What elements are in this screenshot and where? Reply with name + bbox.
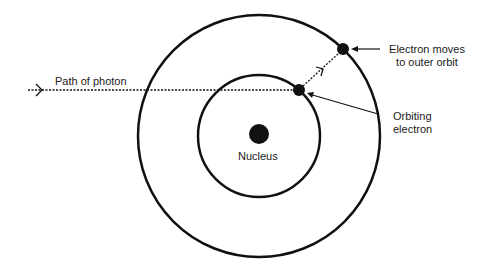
atom-diagram	[0, 0, 478, 275]
orbiting-electron-label: Orbiting electron	[393, 110, 432, 136]
orbiting-electron-label-line1: Orbiting	[393, 110, 432, 123]
nucleus	[249, 124, 269, 144]
electron-moves-label-line1: Electron moves	[381, 43, 473, 56]
outer-electron	[337, 43, 349, 55]
orbiting-electron-pointer	[309, 94, 378, 114]
electron-moves-arrowhead-icon	[351, 46, 358, 52]
inner-electron	[293, 84, 305, 96]
nucleus-label: Nucleus	[238, 150, 278, 163]
orbiting-electron-label-line2: electron	[393, 123, 432, 136]
electron-moves-label-line2: to outer orbit	[381, 56, 473, 69]
transition-path-line	[303, 53, 339, 86]
orbiting-electron-arrowhead-icon	[307, 92, 314, 98]
electron-moves-label: Electron moves to outer orbit	[381, 43, 473, 69]
photon-path-label: Path of photon	[55, 75, 127, 88]
